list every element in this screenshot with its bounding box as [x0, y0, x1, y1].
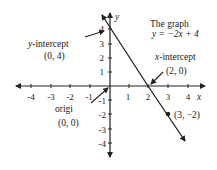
x-intercept-coord: (2, 0) [166, 66, 187, 77]
y-tick-label: 2 [100, 53, 105, 63]
point-marker [166, 112, 171, 117]
y-tick-labels: 4 3 2 1 -1 -2 -3 -4 y [99, 12, 121, 149]
title-line-1: The graph [150, 19, 189, 29]
graph-title: The graph y = −2x + 4 [150, 19, 199, 39]
y-intercept-annotation: y-intercept (0, 4) [27, 31, 104, 62]
origin-coord: (0, 0) [58, 118, 79, 129]
x-tick-label: -4 [27, 92, 35, 102]
origin-annotation: origi (0, 0) [55, 88, 108, 129]
y-tick-label: -1 [99, 96, 107, 106]
origin-label: origi [55, 104, 73, 114]
y-intercept-coord: (0, 4) [44, 51, 65, 62]
y-tick-label: -3 [99, 125, 107, 135]
x-tick-label: -2 [66, 92, 74, 102]
y-tick-label: 3 [100, 39, 105, 49]
x-intercept-label: x-intercept [154, 52, 196, 62]
point-label: (3, −2) [174, 110, 200, 121]
y-intercept-label: y-intercept [27, 39, 69, 49]
x-tick-label: 4 [186, 92, 191, 102]
x-intercept-annotation: x-intercept (2, 0) [151, 52, 196, 84]
x-tick-label: -3 [47, 92, 55, 102]
x-tick-label: 1 [126, 92, 131, 102]
y-tick-label: -2 [99, 110, 107, 120]
y-intercept-arrow [85, 31, 104, 37]
title-equation: y = −2x + 4 [151, 29, 199, 39]
x-tick-label: -1 [85, 92, 93, 102]
graph-figure: -4 -3 -2 -1 1 2 3 4 x 4 3 2 1 -1 -2 -3 -… [0, 0, 217, 170]
x-tick-labels: -4 -3 -2 -1 1 2 3 4 x [27, 92, 202, 102]
x-intercept-arrow [151, 72, 163, 84]
y-axis [108, 13, 112, 157]
y-tick-label: -4 [99, 139, 107, 149]
x-tick-label: 3 [166, 92, 171, 102]
y-tick-label: 1 [100, 67, 105, 77]
x-tick-label: 2 [146, 92, 151, 102]
y-axis-label: y [114, 12, 120, 22]
x-axis-label: x [196, 92, 202, 102]
